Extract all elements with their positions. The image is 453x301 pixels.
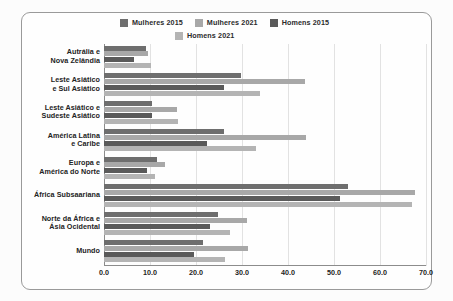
- x-tick-label: 40.0: [281, 268, 295, 277]
- x-tick-label: 60.0: [373, 268, 387, 277]
- plot-area: [104, 44, 426, 266]
- category-label: Europa eAmérica do Norte: [12, 159, 100, 176]
- bar[interactable]: [104, 135, 306, 140]
- legend-item-homens-2015[interactable]: Homens 2015: [270, 18, 329, 27]
- bar[interactable]: [104, 91, 260, 96]
- bar-group: [104, 73, 426, 95]
- x-axis-line: [104, 265, 426, 266]
- bar-group: [104, 240, 426, 262]
- bar[interactable]: [104, 196, 340, 201]
- category-label: Norte da África eÁsia Ocidental: [12, 215, 100, 232]
- x-tick-label: 0.0: [99, 268, 109, 277]
- bar-group: [104, 157, 426, 179]
- bar[interactable]: [104, 79, 305, 84]
- bar[interactable]: [104, 202, 412, 207]
- bar[interactable]: [104, 240, 203, 245]
- category-label: América Latinae Caribe: [12, 132, 100, 149]
- bar[interactable]: [104, 218, 247, 223]
- bar[interactable]: [104, 46, 146, 51]
- bar[interactable]: [104, 190, 415, 195]
- x-tick-label: 70.0: [419, 268, 433, 277]
- bar-group: [104, 46, 426, 68]
- bar[interactable]: [104, 107, 177, 112]
- category-label: Leste Asiático eSudeste Asiático: [12, 104, 100, 121]
- legend-swatch-icon: [195, 19, 203, 27]
- legend-label: Mulheres 2015: [132, 18, 183, 27]
- bar[interactable]: [104, 230, 230, 235]
- chart-screenshot: Mulheres 2015 Mulheres 2021 Homens 2015 …: [0, 0, 453, 301]
- bar[interactable]: [104, 212, 218, 217]
- bar[interactable]: [104, 113, 152, 118]
- bar[interactable]: [104, 129, 224, 134]
- chart-legend: Mulheres 2015 Mulheres 2021 Homens 2015 …: [120, 18, 420, 40]
- legend-row-1: Mulheres 2015 Mulheres 2021 Homens 2015: [120, 18, 420, 27]
- bar[interactable]: [104, 73, 241, 78]
- bar[interactable]: [104, 157, 157, 162]
- bar[interactable]: [104, 119, 178, 124]
- bar[interactable]: [104, 246, 248, 251]
- legend-label: Homens 2015: [282, 18, 329, 27]
- bar[interactable]: [104, 51, 148, 56]
- category-label: África Subsaariana: [12, 191, 100, 199]
- bar[interactable]: [104, 101, 152, 106]
- bar-group: [104, 212, 426, 234]
- legend-label: Homens 2021: [187, 31, 234, 40]
- legend-item-homens-2021[interactable]: Homens 2021: [175, 31, 234, 40]
- legend-item-mulheres-2015[interactable]: Mulheres 2015: [120, 18, 183, 27]
- bar[interactable]: [104, 57, 134, 62]
- category-axis-labels: Autrália eNova ZelândiaLeste Asiáticoe S…: [10, 44, 100, 266]
- bar-group: [104, 101, 426, 123]
- legend-swatch-icon: [175, 32, 183, 40]
- bar[interactable]: [104, 162, 165, 167]
- x-tick-label: 10.0: [143, 268, 157, 277]
- bar[interactable]: [104, 257, 225, 262]
- bar[interactable]: [104, 224, 210, 229]
- bar[interactable]: [104, 141, 207, 146]
- legend-swatch-icon: [270, 19, 278, 27]
- bar[interactable]: [104, 184, 348, 189]
- category-label: Mundo: [12, 247, 100, 255]
- x-tick-label: 50.0: [327, 268, 341, 277]
- bar-group: [104, 129, 426, 151]
- category-label: Leste Asiáticoe Sul Asiático: [12, 76, 100, 93]
- x-tick-label: 20.0: [189, 268, 203, 277]
- bar[interactable]: [104, 174, 155, 179]
- bar-group: [104, 184, 426, 206]
- category-label: Autrália eNova Zelândia: [12, 48, 100, 65]
- legend-item-mulheres-2021[interactable]: Mulheres 2021: [195, 18, 258, 27]
- bar[interactable]: [104, 63, 151, 68]
- bar[interactable]: [104, 146, 256, 151]
- bar[interactable]: [104, 168, 147, 173]
- gridline: [426, 44, 427, 266]
- legend-label: Mulheres 2021: [207, 18, 258, 27]
- bar[interactable]: [104, 85, 224, 90]
- legend-row-2: Homens 2021: [175, 31, 420, 40]
- legend-swatch-icon: [120, 19, 128, 27]
- x-tick-label: 30.0: [235, 268, 249, 277]
- x-axis-tick-labels: 0.010.020.030.040.050.060.070.0: [104, 268, 426, 280]
- bar[interactable]: [104, 252, 194, 257]
